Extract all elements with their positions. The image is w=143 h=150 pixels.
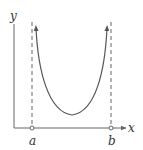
x-axis-label: x <box>128 121 135 135</box>
point-a-open-circle <box>30 126 34 130</box>
point-b-open-circle <box>109 126 113 130</box>
asymptote-a-label: a <box>29 134 36 148</box>
asymptote-b-label: b <box>108 134 116 148</box>
u-curve <box>36 28 107 115</box>
graph-diagram: y x a b <box>0 0 143 150</box>
y-axis-label: y <box>9 9 17 23</box>
